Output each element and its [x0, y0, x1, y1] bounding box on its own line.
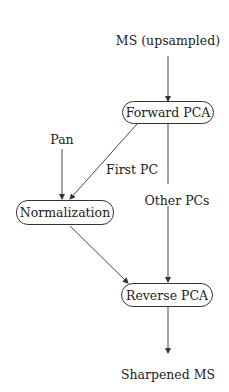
node-reverse-pca: Reverse PCA: [121, 283, 213, 307]
edge-label-other-pcs: Other PCs: [144, 195, 209, 208]
node-forward-pca-label: Forward PCA: [126, 105, 211, 120]
output-label: Sharpened MS: [121, 369, 215, 382]
edge-label-first-pc: First PC: [106, 164, 158, 177]
node-normalization: Normalization: [16, 200, 114, 225]
node-normalization-label: Normalization: [20, 205, 110, 220]
input-pan-label: Pan: [50, 134, 73, 147]
node-forward-pca: Forward PCA: [122, 101, 214, 124]
input-ms-label: MS (upsampled): [116, 35, 220, 48]
node-reverse-pca-label: Reverse PCA: [126, 288, 208, 303]
edge-normalization-to-reverse-pca: [70, 226, 128, 283]
